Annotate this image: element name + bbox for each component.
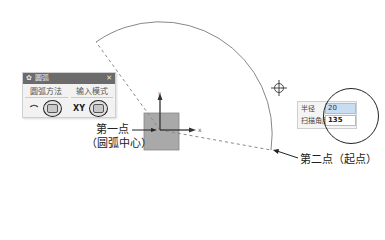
close-icon[interactable]: ✕ [106,73,112,84]
arc-method-label: 圆弧方法 [25,86,68,98]
three-point-arc-button[interactable]: ⌒ [25,101,42,116]
xy-coordinate-button[interactable]: XY [71,101,88,116]
y-axis-label: y [158,90,161,97]
crosshair-cursor-icon [271,80,287,96]
gear-icon: ✿ [26,73,32,84]
arc-dialog: ✿ 圆弧 ✕ 圆弧方法 ⌒ 输入模式 XY [22,72,116,118]
arc-center-label: （圆弧中心） [86,134,152,150]
dialog-titlebar[interactable]: ✿ 圆弧 ✕ [23,73,115,84]
input-mode-group: 输入模式 XY [71,86,114,117]
parameter-mode-icon [93,104,104,113]
arc-icon: ⌒ [30,103,38,114]
arc-method-group: 圆弧方法 ⌒ [25,86,68,117]
radius-label: 半径 [298,103,325,113]
center-arc-icon [47,104,58,113]
sweep-angle-label: 扫描角度 [298,115,325,125]
center-point-arc-button[interactable] [43,100,62,117]
second-point-arrow-icon [273,149,279,154]
dialog-title: 圆弧 [35,73,106,84]
highlight-circle [323,88,379,144]
x-axis-label: x [198,126,202,133]
second-point-label: 第二点（起点） [300,150,377,166]
x-axis-arrow-icon [189,128,196,133]
second-point-leader [277,151,298,158]
input-mode-label: 输入模式 [71,86,114,98]
parameter-mode-button[interactable] [89,100,108,117]
